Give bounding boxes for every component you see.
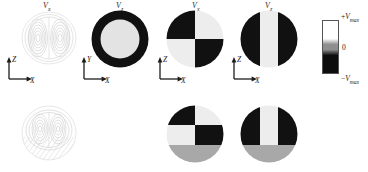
axis-label-vertical-2: Y	[87, 55, 92, 64]
gray-band-quadrant	[165, 145, 225, 163]
colorbar-gradient	[322, 20, 339, 74]
quadrant-top-left	[165, 10, 195, 39]
velocity-colorbar: +Vmax 0 −Vmax	[318, 12, 368, 82]
stripe-band-plot	[239, 105, 299, 163]
axis-label-horizontal-3: X	[180, 76, 186, 84]
axes-frame-4: Z X	[229, 54, 263, 84]
colorbar-label-zero: 0	[342, 43, 346, 52]
quadrant-band-plot	[165, 105, 225, 163]
panel-vx-bottom	[18, 104, 80, 164]
axis-label-vertical-1: Z	[12, 55, 17, 64]
contour-hatch-plot	[18, 104, 80, 164]
axis-label-horizontal-4: X	[254, 76, 260, 84]
stripe-b-center	[260, 105, 278, 145]
quadrant-b-top-left	[165, 105, 195, 125]
stripe-right	[278, 10, 299, 68]
quadrant-b-mid-right	[195, 125, 225, 145]
axes-frame-3: Z X	[155, 54, 189, 84]
panel-vz-stripe-bottom	[239, 105, 299, 163]
panel-vx-quad-bottom	[165, 105, 225, 163]
axis-label-horizontal-2: X	[104, 76, 110, 84]
colorbar-label-max: +Vmax	[341, 12, 359, 23]
stripe-b-left	[239, 105, 260, 145]
velocity-mode-figure: Vx	[0, 0, 368, 172]
axis-label-vertical-3: Z	[163, 55, 168, 64]
colorbar-label-min: −Vmax	[341, 74, 359, 85]
quadrant-b-top-right	[195, 105, 225, 125]
axes-frame-1: Z X	[4, 54, 38, 84]
gray-band-stripe	[239, 145, 299, 163]
quadrant-top-right	[195, 10, 225, 39]
quadrant-bottom-right	[195, 39, 225, 68]
axis-label-vertical-4: Z	[237, 55, 242, 64]
stripe-b-right	[278, 105, 299, 145]
quadrant-b-mid-left	[165, 125, 195, 145]
axes-frame-2: Y X	[79, 54, 113, 84]
axis-label-horizontal-1: X	[29, 76, 35, 84]
